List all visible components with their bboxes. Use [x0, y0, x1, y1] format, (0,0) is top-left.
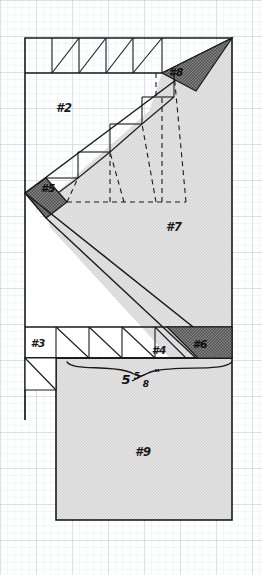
piece-label-9: #9 — [135, 445, 151, 459]
dimension-whole: 5 — [121, 372, 130, 387]
piece-label-2: #2 — [56, 101, 72, 115]
diagram-canvas: #2 #8 #5 #7 #3 #4 #6 #9 5 5 8 " — [0, 0, 262, 575]
dimension-unit-mark: " — [154, 367, 160, 380]
piece-label-4: #4 — [152, 344, 167, 356]
cutting-layout-diagram: #2 #8 #5 #7 #3 #4 #6 #9 5 5 8 " — [0, 0, 262, 575]
dimension-denominator: 8 — [143, 379, 149, 389]
piece-label-6: #6 — [193, 338, 208, 350]
piece-label-7: #7 — [166, 220, 182, 234]
piece-label-3: #3 — [31, 337, 46, 349]
piece-label-5: #5 — [41, 182, 56, 194]
piece-label-8: #8 — [169, 66, 184, 78]
